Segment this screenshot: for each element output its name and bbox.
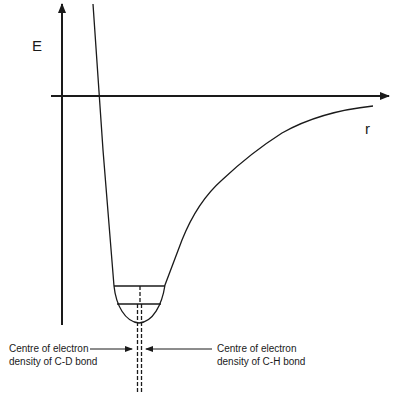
cd-annotation-line2: density of C-D bond: [9, 355, 97, 368]
ch-bond-annotation: Centre of electron density of C-H bond: [217, 342, 305, 368]
distance-axis-label: r: [365, 120, 370, 137]
ch-annotation-line2: density of C-H bond: [217, 355, 305, 368]
cd-annotation-line1: Centre of electron: [9, 342, 97, 355]
cd-bond-annotation: Centre of electron density of C-D bond: [9, 342, 97, 368]
ch-annotation-line1: Centre of electron: [217, 342, 305, 355]
energy-axis-label: E: [32, 37, 42, 54]
potential-energy-curve: [93, 4, 373, 323]
